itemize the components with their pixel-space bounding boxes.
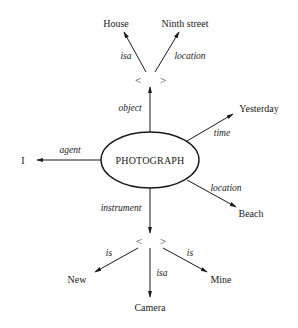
object-node-right-bracket: > [160, 75, 166, 86]
edge-label-location-right: location [210, 184, 241, 194]
node-house: House [103, 19, 129, 29]
instrument-node-right-bracket: > [160, 236, 166, 247]
edge-label-object: object [118, 104, 141, 114]
edge-label-instrument: instrument [101, 204, 142, 214]
edge-label-time: time [214, 129, 230, 139]
node-beach: Beach [239, 209, 264, 219]
is-new-arrow [95, 248, 138, 272]
node-yesterday: Yesterday [239, 104, 279, 114]
edge-label-is-right: is [187, 249, 193, 259]
node-ninth-street: Ninth street [162, 19, 209, 29]
node-new: New [68, 275, 87, 285]
node-camera: Camera [134, 303, 165, 313]
node-mine: Mine [210, 275, 231, 285]
instrument-node-left-bracket: < [136, 236, 142, 247]
node-agent-i: I [21, 156, 24, 166]
is-mine-arrow [163, 248, 207, 272]
photograph-label: PHOTOGRAPH [115, 156, 184, 166]
object-node-left-bracket: < [135, 75, 141, 86]
edge-label-isa-top: isa [120, 52, 131, 62]
edge-label-location-top: location [174, 52, 205, 62]
edge-label-agent: agent [59, 146, 80, 156]
edge-label-is-left: is [106, 249, 112, 259]
edge-label-isa-bottom: isa [156, 269, 167, 279]
semantic-network-diagram: PHOTOGRAPH < > House Ninth street isa lo… [0, 0, 298, 328]
